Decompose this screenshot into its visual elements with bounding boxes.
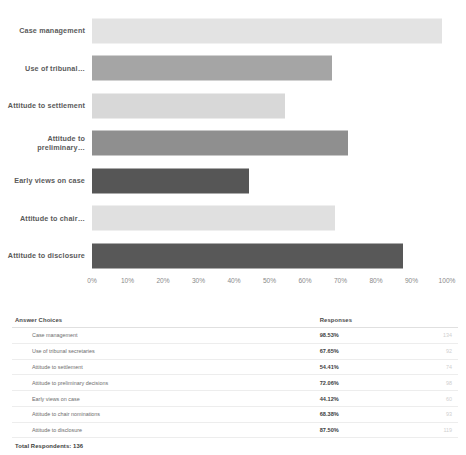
cell-answer-choice: Attitude to preliminary decisions	[12, 375, 320, 391]
bar-row: Case management	[0, 12, 466, 50]
cell-response-count: 92	[418, 343, 458, 359]
table-row: Early views on case44.12%60	[12, 391, 458, 407]
x-axis-tick: 30%	[192, 277, 205, 284]
bar-track	[92, 125, 447, 163]
bar	[92, 206, 335, 231]
table-row: Attitude to settlement54.41%74	[12, 359, 458, 375]
x-axis-tick: 40%	[227, 277, 240, 284]
bar-category-label: Attitude to disclosure	[0, 251, 92, 261]
header-counts	[418, 314, 458, 328]
header-answer-choices: Answer Choices	[12, 314, 320, 328]
table-row: Attitude to disclosure87.50%119	[12, 422, 458, 438]
bar-row: Attitude to chair…	[0, 200, 466, 238]
bar-track	[92, 200, 447, 238]
total-respondents: Total Respondents: 136	[12, 443, 458, 449]
bar-row: Use of tribunal…	[0, 50, 466, 88]
bar-category-label: Case management	[0, 26, 92, 36]
cell-response-count: 93	[418, 406, 458, 422]
answer-choices-table: Answer Choices Responses Case management…	[12, 314, 458, 438]
bar-category-label: Attitude to settlement	[0, 101, 92, 111]
bar-category-label: Attitude to chair…	[0, 214, 92, 224]
x-axis-tick: 100%	[439, 277, 456, 284]
cell-response-percent: 67.65%	[320, 343, 418, 359]
x-axis-tick: 70%	[334, 277, 347, 284]
cell-response-count: 98	[418, 375, 458, 391]
bar	[92, 131, 348, 156]
x-axis-tick: 50%	[263, 277, 276, 284]
x-axis: 0%10%20%30%40%50%60%70%80%90%100%	[92, 277, 447, 295]
bar-row: Attitude to settlement	[0, 87, 466, 125]
cell-response-count: 119	[418, 422, 458, 438]
bar-row: Attitude to preliminary…	[0, 125, 466, 163]
x-axis-tick: 60%	[298, 277, 311, 284]
x-axis-tick: 90%	[405, 277, 418, 284]
bar-row: Early views on case	[0, 162, 466, 200]
cell-response-count: 60	[418, 391, 458, 407]
bar-track	[92, 162, 447, 200]
cell-response-percent: 87.50%	[320, 422, 418, 438]
bar	[92, 56, 332, 81]
table-row: Case management98.53%134	[12, 328, 458, 344]
table-header-row: Answer Choices Responses	[12, 314, 458, 328]
cell-answer-choice: Early views on case	[12, 391, 320, 407]
cell-answer-choice: Attitude to disclosure	[12, 422, 320, 438]
table-body: Case management98.53%134Use of tribunal …	[12, 328, 458, 438]
bar-category-label: Attitude to preliminary…	[0, 134, 92, 153]
cell-response-count: 134	[418, 328, 458, 344]
bar	[92, 18, 442, 43]
table-row: Attitude to preliminary decisions72.06%9…	[12, 375, 458, 391]
header-responses: Responses	[320, 314, 418, 328]
survey-results-page: Case managementUse of tribunal…Attitude …	[0, 0, 466, 455]
bar-track	[92, 50, 447, 88]
x-axis-tick: 10%	[121, 277, 134, 284]
x-axis-tick: 80%	[369, 277, 382, 284]
cell-answer-choice: Use of tribunal secretaries	[12, 343, 320, 359]
bar-track	[92, 12, 447, 50]
cell-response-percent: 54.41%	[320, 359, 418, 375]
cell-response-percent: 98.53%	[320, 328, 418, 344]
bar-chart: Case managementUse of tribunal…Attitude …	[0, 0, 466, 300]
bar-chart-rows: Case managementUse of tribunal…Attitude …	[0, 12, 466, 275]
responses-table: Answer Choices Responses Case management…	[12, 314, 458, 449]
cell-answer-choice: Attitude to settlement	[12, 359, 320, 375]
table-row: Use of tribunal secretaries67.65%92	[12, 343, 458, 359]
bar-category-label: Early views on case	[0, 176, 92, 186]
bar	[92, 93, 285, 118]
cell-response-percent: 44.12%	[320, 391, 418, 407]
x-axis-tick: 0%	[87, 277, 97, 284]
x-axis-tick: 20%	[156, 277, 169, 284]
cell-answer-choice: Case management	[12, 328, 320, 344]
bar-track	[92, 237, 447, 275]
cell-response-percent: 72.06%	[320, 375, 418, 391]
table-header: Answer Choices Responses	[12, 314, 458, 328]
table-row: Attitude to chair nominations68.38%93	[12, 406, 458, 422]
bar	[92, 243, 403, 268]
bar-row: Attitude to disclosure	[0, 237, 466, 275]
bar-category-label: Use of tribunal…	[0, 64, 92, 74]
cell-answer-choice: Attitude to chair nominations	[12, 406, 320, 422]
cell-response-percent: 68.38%	[320, 406, 418, 422]
bar-track	[92, 87, 447, 125]
bar	[92, 168, 249, 193]
cell-response-count: 74	[418, 359, 458, 375]
